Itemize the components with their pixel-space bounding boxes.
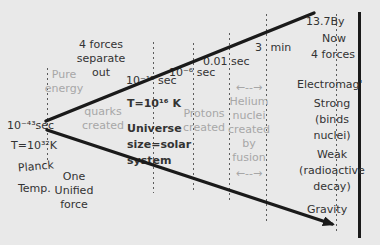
planck-temp-label: Temp. [18,182,51,196]
era-divider-quark-line [153,42,154,193]
four-forces-now-label: 4 forces [302,48,364,62]
one-unified-force-label: One Unified force [52,170,96,212]
temp-marker-planck: T=10³²K [11,139,57,153]
quarks-created-label: quarks created [76,105,130,133]
force-weak-label: Weak (radioactive decay) [294,147,370,195]
helium-span-bottom-arrow-icon: ←--→ [228,167,270,181]
four-forces-separate-label: 4 forces separate out [68,38,134,80]
planck-name-label: Planck [17,158,54,175]
temp-marker-1e16k: T=10¹⁶ K [127,97,181,111]
now-label: Now [306,32,362,46]
helium-created-label: Helium nuclei created by fusion [227,95,271,165]
age-now-label: 13.7By [306,15,345,29]
time-marker-3min: 3 min [255,41,291,55]
protons-created-label: Protons created [177,107,231,135]
time-marker-planck: 10⁻⁴³sec [7,119,54,133]
helium-span-top-arrow-icon: ←--→ [228,81,270,95]
time-marker-0-01s: 0.01 sec [203,55,250,69]
big-bang-timeline-diagram: 10⁻⁴³sec T=10³²K Planck Temp. One Unifie… [0,0,380,245]
force-gravity-label: Gravity [307,203,347,217]
force-electromagnetic-label: Electromag' [297,78,363,92]
force-strong-label: Strong (binds nuclei) [302,96,362,144]
